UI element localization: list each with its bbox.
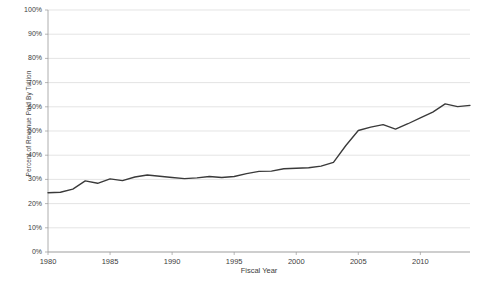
plot-area [0, 0, 489, 286]
x-axis-tick-marks [48, 252, 420, 255]
gridlines [48, 10, 470, 252]
tuition-revenue-line-chart: Percent of Revenue Paid By Tuition Fisca… [0, 0, 489, 286]
y-axis-tick-marks [45, 10, 48, 252]
